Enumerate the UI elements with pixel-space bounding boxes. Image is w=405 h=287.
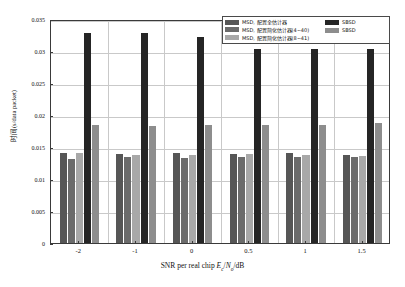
bar xyxy=(124,157,131,243)
x-tick-label: 1.5 xyxy=(358,247,366,254)
gridline-horizontal xyxy=(51,53,389,54)
x-axis-label-suffix: /dB xyxy=(233,261,244,270)
legend-label: MSD, 配置简化估计器(8~41) xyxy=(242,35,309,41)
gridline-vertical xyxy=(278,21,279,243)
x-tick-label: 0.5 xyxy=(244,247,252,254)
x-tick-mark xyxy=(248,241,249,244)
legend-label: MSD, 配置简化估计器(4~40) xyxy=(242,27,309,33)
y-tick-label: 0.02 xyxy=(0,113,45,119)
y-tick-mark xyxy=(50,84,53,85)
bar xyxy=(230,154,237,243)
y-tick-label: 0.035 xyxy=(0,17,45,23)
bar xyxy=(254,49,261,243)
legend-color-swatch xyxy=(225,27,239,32)
x-tick-mark xyxy=(78,241,79,244)
x-tick-label: -1 xyxy=(132,247,137,254)
bar xyxy=(359,156,366,243)
bar xyxy=(294,157,301,243)
bar xyxy=(367,49,374,243)
bar xyxy=(60,153,67,243)
legend-entry: MSD, 配置简化估计器(8~41) xyxy=(225,34,322,41)
bar xyxy=(141,33,148,243)
x-axis-label: SNR per real chip Ec/No/dB xyxy=(0,261,405,274)
legend-label: SBSD xyxy=(342,27,356,33)
bar xyxy=(181,158,188,243)
x-tick-mark xyxy=(305,241,306,244)
bar xyxy=(116,154,123,243)
legend-entry: SBSD xyxy=(325,19,385,27)
y-tick-label: 0.03 xyxy=(0,49,45,55)
y-tick-mark xyxy=(50,116,53,117)
x-tick-label: 1 xyxy=(303,247,306,254)
y-tick-label: 0.015 xyxy=(0,145,45,151)
bar xyxy=(76,153,83,243)
y-tick-label: 0.025 xyxy=(0,81,45,87)
gridline-vertical xyxy=(334,21,335,243)
legend-entry: SBSD xyxy=(325,27,385,35)
bar xyxy=(197,37,204,243)
bar xyxy=(149,126,156,243)
bar xyxy=(132,155,139,243)
bar xyxy=(286,153,293,243)
bar xyxy=(302,155,309,243)
bar xyxy=(205,125,212,243)
bar xyxy=(375,123,382,243)
gridline-vertical xyxy=(164,21,165,243)
legend-color-swatch xyxy=(325,20,339,25)
legend-column-left: MSD, 配置全估计器MSD, 配置简化估计器(4~40)MSD, 配置简化估计… xyxy=(225,19,322,42)
legend-color-swatch xyxy=(325,28,339,33)
y-axis-label: 时间(s/data packet) xyxy=(10,46,18,186)
x-axis-label-prefix: SNR per real chip xyxy=(161,261,217,270)
bar xyxy=(84,33,91,243)
y-tick-mark xyxy=(50,212,53,213)
bar xyxy=(68,159,75,243)
legend-entry: MSD, 配置简化估计器(4~40) xyxy=(225,26,322,33)
gridline-vertical xyxy=(108,21,109,243)
x-tick-label: -2 xyxy=(76,247,81,254)
bar xyxy=(351,157,358,243)
plot-area xyxy=(50,20,390,244)
bar xyxy=(319,125,326,243)
x-tick-mark xyxy=(135,241,136,244)
x-tick-mark xyxy=(362,241,363,244)
y-tick-mark xyxy=(50,20,53,21)
bar xyxy=(173,153,180,243)
chart-legend: MSD, 配置全估计器MSD, 配置简化估计器(4~40)MSD, 配置简化估计… xyxy=(222,16,390,44)
gridline-horizontal xyxy=(51,117,389,118)
y-tick-label: 0.01 xyxy=(0,177,45,183)
legend-column-right: SBSDSBSD xyxy=(325,19,385,42)
x-tick-mark xyxy=(192,241,193,244)
y-tick-label: 0.005 xyxy=(0,209,45,215)
gridline-horizontal xyxy=(51,149,389,150)
legend-color-swatch xyxy=(225,35,239,40)
bar xyxy=(189,155,196,243)
y-tick-mark xyxy=(50,148,53,149)
y-tick-label: 0 xyxy=(0,241,45,247)
y-tick-mark xyxy=(50,180,53,181)
legend-label: MSD, 配置全估计器 xyxy=(242,19,287,25)
bar xyxy=(343,155,350,243)
bar xyxy=(311,49,318,243)
bar xyxy=(238,157,245,243)
bar xyxy=(246,154,253,243)
gridline-horizontal xyxy=(51,213,389,214)
gridline-vertical xyxy=(221,21,222,243)
gridline-horizontal xyxy=(51,85,389,86)
y-tick-mark xyxy=(50,244,53,245)
bar xyxy=(92,125,99,243)
y-tick-mark xyxy=(50,52,53,53)
legend-entry: MSD, 配置全估计器 xyxy=(225,19,322,26)
figure-bar-chart: 00.0050.010.0150.020.0250.030.035 -2-100… xyxy=(0,0,405,287)
legend-color-swatch xyxy=(225,20,239,25)
bar xyxy=(262,125,269,243)
x-tick-label: 0 xyxy=(190,247,193,254)
legend-label: SBSD xyxy=(342,19,356,25)
gridline-horizontal xyxy=(51,181,389,182)
